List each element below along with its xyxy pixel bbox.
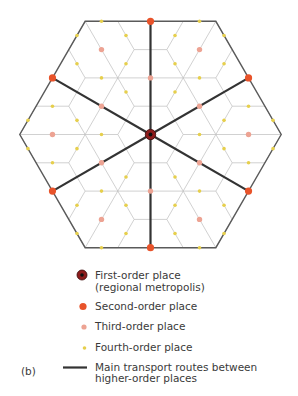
fourth-order-place (26, 119, 30, 123)
third-order-place (99, 160, 104, 165)
third-order-place (99, 104, 104, 109)
legend-second-order-symbol (79, 303, 86, 310)
fourth-order-place (100, 20, 104, 24)
fourth-order-place (100, 133, 104, 137)
third-order-place (99, 47, 104, 52)
fourth-order-place (222, 34, 226, 38)
fourth-order-place (100, 189, 104, 193)
fourth-order-place (75, 203, 79, 207)
legend-first-order-core (80, 273, 84, 277)
legend-second-order-label: Second-order place (95, 300, 197, 312)
third-order-place (148, 75, 153, 80)
fourth-order-place (124, 175, 128, 179)
fourth-order-place (124, 34, 128, 38)
second-order-place (245, 74, 252, 81)
fourth-order-place (173, 90, 177, 94)
fourth-order-place (247, 161, 251, 165)
central-place-diagram (0, 0, 298, 396)
legend-first-order-sublabel: (regional metropolis) (95, 281, 205, 293)
second-order-place (245, 188, 252, 195)
fourth-order-place (198, 189, 202, 193)
legend-first-order-label: First-order place (95, 269, 181, 281)
fourth-order-place (198, 20, 202, 24)
fourth-order-place (222, 203, 226, 207)
fourth-order-place (124, 62, 128, 66)
fourth-order-place (271, 147, 275, 151)
fourth-order-place (247, 104, 251, 108)
legend-third-order-label: Third-order place (95, 320, 185, 332)
third-order-place (197, 104, 202, 109)
second-order-place (49, 188, 56, 195)
fourth-order-place (51, 104, 55, 108)
fourth-order-place (124, 203, 128, 207)
fourth-order-place (173, 34, 177, 38)
fourth-order-place (75, 62, 79, 66)
third-order-place (197, 217, 202, 222)
fourth-order-place (173, 62, 177, 66)
fourth-order-place (75, 232, 79, 236)
second-order-place (49, 74, 56, 81)
third-order-place (99, 217, 104, 222)
fourth-order-place (198, 133, 202, 137)
third-order-place (50, 132, 55, 137)
fourth-order-place (198, 246, 202, 250)
fourth-order-place (198, 76, 202, 80)
legend-third-order-symbol (81, 324, 86, 329)
fourth-order-place (124, 232, 128, 236)
fourth-order-place (173, 232, 177, 236)
fourth-order-place (26, 147, 30, 151)
fourth-order-place (100, 76, 104, 80)
fourth-order-place (51, 161, 55, 165)
third-order-place (246, 132, 251, 137)
legend-fourth-order-label: Fourth-order place (95, 341, 192, 353)
fourth-order-place (222, 62, 226, 66)
third-order-place (148, 188, 153, 193)
fourth-order-place (271, 119, 275, 123)
second-order-place (147, 244, 154, 251)
fourth-order-place (124, 90, 128, 94)
legend-symbols (63, 270, 87, 368)
fourth-order-place (222, 119, 226, 123)
legend-route-sublabel: higher-order places (95, 372, 197, 384)
fourth-order-place (100, 246, 104, 250)
fourth-order-place (173, 203, 177, 207)
fourth-order-place (75, 34, 79, 38)
first-order-place-core (149, 133, 153, 137)
third-order-place (197, 47, 202, 52)
panel-label: (b) (21, 365, 36, 377)
fourth-order-place (75, 147, 79, 151)
third-order-place (197, 160, 202, 165)
second-order-place (147, 18, 154, 25)
fourth-order-place (173, 175, 177, 179)
fourth-order-place (222, 232, 226, 236)
fourth-order-place (75, 119, 79, 123)
legend-fourth-order-symbol (83, 346, 87, 350)
fourth-order-place (222, 147, 226, 151)
